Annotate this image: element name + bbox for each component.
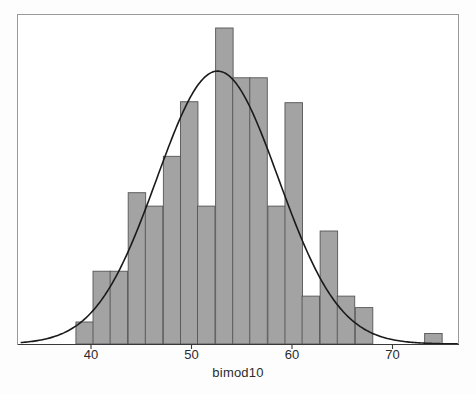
histogram-figure: 40506070 bimod10 bbox=[0, 0, 476, 394]
histogram-bar bbox=[268, 206, 285, 344]
histogram-bar bbox=[250, 78, 267, 344]
histogram-bar bbox=[76, 322, 93, 344]
histogram-bar bbox=[145, 206, 162, 344]
x-axis-tick-label-60: 60 bbox=[285, 347, 299, 362]
x-axis-tick-label-40: 40 bbox=[84, 347, 98, 362]
histogram-bar bbox=[216, 28, 233, 344]
histogram-bar bbox=[163, 156, 180, 344]
histogram-bar bbox=[425, 333, 442, 344]
histogram-bar bbox=[180, 102, 197, 344]
x-axis-tick-label-50: 50 bbox=[184, 347, 198, 362]
histogram-bars bbox=[76, 28, 442, 344]
histogram-bar bbox=[198, 206, 215, 344]
x-axis-label: bimod10 bbox=[0, 365, 476, 380]
x-axis-tick-label-70: 70 bbox=[385, 347, 399, 362]
histogram-bar bbox=[302, 296, 319, 344]
plot-canvas bbox=[0, 0, 476, 394]
histogram-bar bbox=[233, 78, 250, 344]
histogram-bar bbox=[285, 103, 302, 344]
histogram-bar bbox=[320, 231, 337, 344]
